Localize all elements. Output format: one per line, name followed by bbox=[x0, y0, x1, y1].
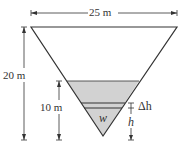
height-label: 20 m bbox=[3, 70, 25, 81]
strip-thickness-label: Δh bbox=[138, 100, 152, 112]
arrowhead-right bbox=[171, 11, 177, 15]
top-width-label: 25 m bbox=[89, 7, 111, 18]
strip-height-label: h bbox=[128, 116, 134, 128]
diagram-graphics bbox=[0, 0, 193, 154]
weight-label: w bbox=[99, 112, 107, 124]
arrowhead-left bbox=[31, 11, 37, 15]
water-depth-label: 10 m bbox=[40, 102, 62, 113]
tank-diagram: 25 m 20 m 10 m Δh h w bbox=[0, 0, 193, 154]
